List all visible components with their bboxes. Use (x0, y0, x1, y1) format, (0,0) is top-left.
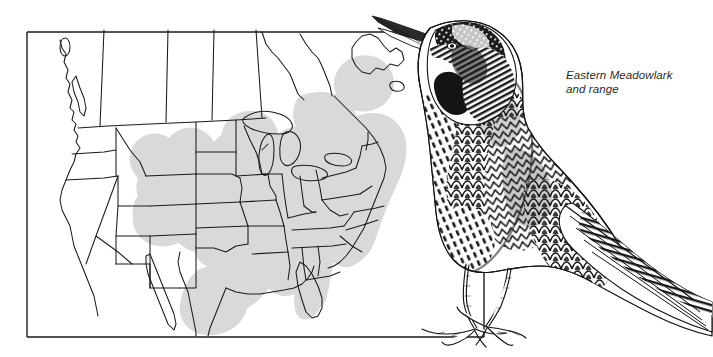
range-map-figure (0, 0, 713, 357)
range-shape-plains-edge (165, 147, 213, 195)
figure-canvas (0, 0, 713, 357)
figure-caption: Eastern Meadowlark and range (566, 68, 706, 96)
